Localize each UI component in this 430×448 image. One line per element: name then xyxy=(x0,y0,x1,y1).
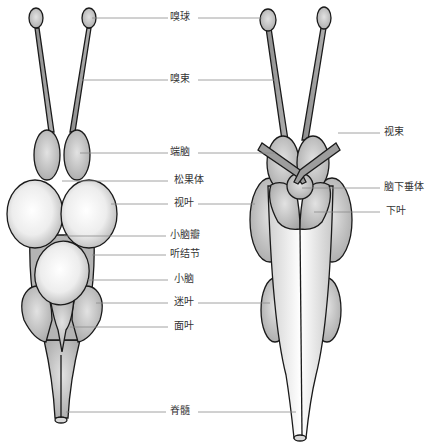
optic-lobe-right xyxy=(61,180,117,248)
label-pineal-body: 松果体 xyxy=(172,174,206,186)
label-olfactory-bulb: 嗅球 xyxy=(168,11,192,23)
label-inferior-lobe: 下叶 xyxy=(384,205,408,217)
olfactory-tract-left xyxy=(35,28,54,132)
label-cerebellum: 小脑 xyxy=(172,273,196,285)
olfactory-bulb-right-ventral xyxy=(317,7,331,29)
fish-brain-diagram xyxy=(0,0,430,448)
telencephalon-right xyxy=(64,130,90,180)
label-telencephalon: 端脑 xyxy=(168,146,192,158)
label-hypophysis: 脑下垂体 xyxy=(382,181,426,193)
optic-lobe-left xyxy=(7,180,63,248)
label-facial-lobe: 面叶 xyxy=(172,320,196,332)
label-spinal-cord: 脊髓 xyxy=(168,405,192,417)
label-cerebellar-valve: 小脑瓣 xyxy=(168,229,202,241)
telencephalon-left xyxy=(34,130,60,180)
olfactory-bulb-left xyxy=(29,8,43,28)
label-optic-lobe: 视叶 xyxy=(172,197,196,209)
olfactory-tract-left-ventral xyxy=(266,28,288,140)
label-auditory-tubercle: 听结节 xyxy=(168,248,202,260)
spinal-cord-end-ventral xyxy=(294,435,306,441)
label-optic-tract: 视束 xyxy=(382,126,406,138)
ventral-view xyxy=(250,7,352,441)
dorsal-view xyxy=(7,8,117,423)
olfactory-bulb-left-ventral xyxy=(260,9,276,31)
olfactory-tract-right-ventral xyxy=(302,28,326,140)
label-olfactory-tract: 嗅束 xyxy=(168,73,192,85)
label-vagal-lobe: 迷叶 xyxy=(172,296,196,308)
